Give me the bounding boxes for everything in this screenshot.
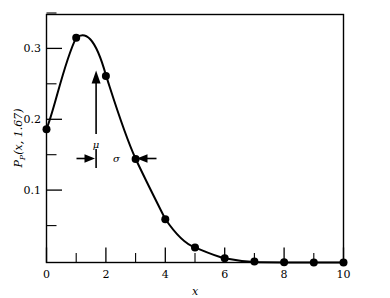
data-point (161, 215, 169, 223)
mu-annotation-label: μ (93, 139, 100, 150)
distribution-curve (47, 35, 344, 262)
x-tick-label-4: 4 (162, 268, 169, 281)
data-point (310, 259, 318, 267)
x-tick-label-8: 8 (281, 268, 288, 281)
mu-annotation: μ (92, 71, 101, 151)
data-point (250, 258, 258, 266)
x-tick-label-0: 0 (43, 268, 50, 281)
data-point (191, 244, 199, 252)
data-point (280, 258, 288, 266)
data-point (340, 259, 348, 267)
data-markers (43, 34, 348, 267)
chart-figure: 0.3 0.2 0.1 0 2 4 6 8 10 x PP(x, 1.67) (0, 0, 390, 298)
y-tick-label-0.1: 0.1 (24, 184, 42, 197)
x-tick-label-6: 6 (221, 268, 228, 281)
svg-text:PP(x, 1.67): PP(x, 1.67) (12, 108, 27, 168)
y-axis-title: PP(x, 1.67) (12, 108, 27, 168)
plot-frame (47, 15, 344, 263)
mu-arrow-head-icon (92, 71, 101, 84)
data-point (102, 72, 110, 80)
data-point (43, 125, 51, 133)
x-axis-title: x (192, 285, 199, 298)
data-point (221, 254, 229, 262)
y-axis-title-args: (x, 1.67) (12, 108, 25, 154)
y-axis-ticks (47, 13, 63, 226)
sigma-annotation: σ (77, 149, 157, 168)
data-point (72, 34, 80, 42)
x-tick-label-2: 2 (102, 268, 109, 281)
probability-distribution-chart: 0.3 0.2 0.1 0 2 4 6 8 10 x PP(x, 1.67) (0, 0, 390, 298)
y-tick-label-0.3: 0.3 (24, 42, 42, 55)
sigma-annotation-label: σ (113, 153, 121, 164)
y-tick-label-0.2: 0.2 (24, 113, 42, 126)
sigma-left-arrow-head-icon (85, 154, 96, 163)
x-tick-label-10: 10 (337, 268, 351, 281)
